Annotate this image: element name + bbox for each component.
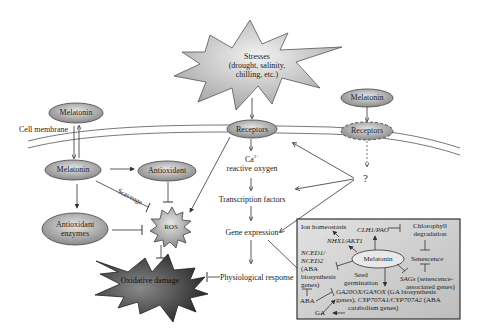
seed-line1: Seed <box>339 271 383 279</box>
box-melatonin-label: Melatonin <box>356 255 400 263</box>
nhx1-akt1-label: NHX1/AKT1 <box>327 237 363 245</box>
antioxidant-enzymes-label: Antioxidant enzymes <box>42 220 108 238</box>
ga-genes-line2a: genes), <box>336 296 358 304</box>
melatonin-stress-pathway-diagram: Stresses (drought, salinity, chilling, e… <box>0 0 479 334</box>
ca-text: Ca <box>245 155 254 164</box>
stresses-line3: chilling, etc.) <box>222 70 292 79</box>
receptors-dashed-label: Receptors <box>341 126 393 135</box>
nced-line4: biosynthesis <box>301 273 336 281</box>
antioxidant-label: Antioxidant <box>138 166 196 175</box>
ga-genes-line1: (GA biosynthesis <box>386 288 436 296</box>
nced-label: NCED1/ NCED2 (ABA biosynthesis genes) <box>301 249 336 289</box>
ga-genes-line2c: (ABA <box>422 296 441 304</box>
seed-germination-label: Seed germination <box>339 271 383 287</box>
antioxidant-enzymes-line1: Antioxidant <box>42 220 108 229</box>
ga-genes-line3: catabolism genes) <box>336 304 441 312</box>
nced-line1: NCED1/ <box>301 249 336 257</box>
stresses-line2: (drought, salinity, <box>222 61 292 70</box>
ga-genes-label: GA20OX/GA3OX (GA biosynthesis genes), CY… <box>336 288 441 312</box>
chlorophyll-line2: degradation <box>406 230 454 238</box>
sags-line1: (senescence- <box>416 275 454 283</box>
melatonin-outside-label: Melatonin <box>49 108 103 117</box>
antioxidant-enzymes-line2: enzymes <box>42 229 108 238</box>
cyp-genes-name: CYP707A1/CYP707A2 <box>358 296 422 304</box>
transcription-factors-label: Transcription factors <box>205 195 299 204</box>
senescence-label: Senescence <box>411 255 443 263</box>
chlorophyll-line1: Chlorophyll <box>406 222 454 230</box>
chlorophyll-degradation-label: Chlorophyll degradation <box>406 222 454 238</box>
question-mark: ? <box>363 172 368 184</box>
oxidative-damage-label: Oxidative damage <box>110 276 190 285</box>
seed-line2: germination <box>339 279 383 287</box>
nced-line3: (ABA <box>301 265 336 273</box>
ga-genes-name: GA20OX/GA3OX <box>336 288 386 296</box>
clh1-pao-label: CLH1/PAO <box>357 226 389 234</box>
ion-homeostasis-label: Ion homeostasis <box>301 223 346 231</box>
receptors-label: Receptors <box>227 125 277 134</box>
sags-name: SAGs <box>400 275 416 283</box>
melatonin-right-label: Melatonin <box>341 93 393 102</box>
ros-label: ROS <box>158 223 184 231</box>
ca-superscript: 2+ <box>254 154 259 159</box>
physiological-response-label: Physiological response <box>220 273 294 282</box>
ga-label: GA <box>315 309 325 317</box>
nced-line5: genes) <box>301 281 336 289</box>
aba-label: ABA <box>300 297 315 305</box>
gene-expression-label: Gene expression <box>210 228 294 237</box>
ca-label: Ca2+ <box>220 152 284 164</box>
oxidative-damage-burst <box>95 254 208 322</box>
melatonin-inside-label: Melatonin <box>45 165 101 174</box>
stresses-title: Stresses <box>222 52 292 61</box>
stresses-label: Stresses (drought, salinity, chilling, e… <box>222 52 292 79</box>
nced-line2: NCED2 <box>301 257 336 265</box>
cell-membrane-label: Cell membrane <box>19 125 68 134</box>
reactive-oxygen-label: reactive oxygen <box>215 164 289 173</box>
